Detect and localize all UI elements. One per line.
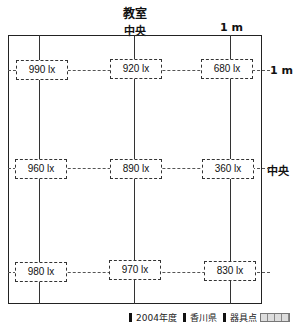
footer-bar-marker — [183, 313, 186, 322]
diagram-title: 教室 — [0, 4, 270, 21]
measurement-r2c2: 890 lx — [110, 159, 162, 179]
measurement-r1c1: 990 lx — [16, 60, 68, 80]
footer-swatch-icon — [260, 313, 290, 322]
measurement-r3c1: 980 lx — [15, 262, 67, 282]
measurement-r3c2: 970 lx — [109, 260, 161, 280]
footer-bar-marker — [129, 313, 132, 322]
footer-caption: 2004年度香川県器具点 — [123, 311, 290, 324]
label-right-center: 中央 — [267, 162, 289, 178]
measurement-r2c1: 960 lx — [15, 159, 67, 179]
measurement-r1c2: 920 lx — [110, 59, 162, 79]
footer-item-fixture: 器具点 — [230, 313, 257, 323]
measurement-r1c3: 680 lx — [201, 59, 253, 79]
label-top-right-distance: 1 m — [220, 21, 243, 34]
measurement-r3c3: 830 lx — [204, 261, 256, 281]
footer-bar-marker — [223, 313, 226, 322]
footer-item-year: 2004年度 — [136, 313, 177, 323]
footer-item-prefecture: 香川県 — [190, 313, 217, 323]
measurement-r2c3: 360 lx — [202, 159, 254, 179]
label-right-top-distance: 1 m — [270, 64, 293, 77]
